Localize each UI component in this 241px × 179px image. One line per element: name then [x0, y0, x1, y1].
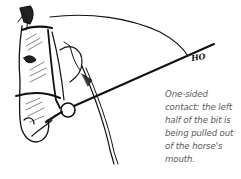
caption-line: being pulled out [165, 127, 241, 140]
bit-mouthpiece [46, 112, 62, 122]
noseband [16, 93, 60, 98]
bit-ring [61, 103, 75, 117]
neck-shading [82, 74, 92, 86]
face-shading [26, 34, 46, 122]
caption-line: One-sided [165, 88, 241, 101]
eye [24, 56, 36, 63]
jaw-outline [60, 47, 82, 82]
figure-caption: One-sided contact: the left half of the … [165, 88, 241, 166]
rein-slack-2 [86, 68, 118, 164]
caption-line: half of the bit is [165, 114, 241, 127]
caption-line: mouth. [165, 153, 241, 166]
ear-left [20, 6, 33, 24]
caption-line: of the horse's [165, 140, 241, 153]
mane-tuft [64, 42, 80, 70]
caption-line: contact: the left [165, 101, 241, 114]
